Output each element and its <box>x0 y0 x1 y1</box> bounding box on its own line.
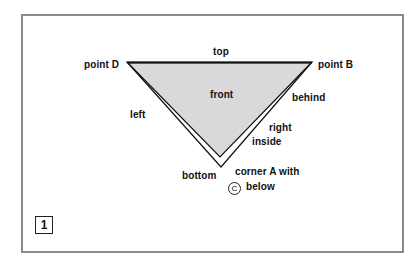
label-behind: behind <box>292 92 325 103</box>
label-right: right <box>269 122 292 133</box>
label-point-b: point B <box>318 59 353 70</box>
label-bottom: bottom <box>182 170 216 181</box>
label-inside: inside <box>252 136 282 147</box>
circle-c-icon: C <box>228 182 241 195</box>
label-corner-a: corner A with <box>235 166 299 177</box>
label-top: top <box>213 46 229 57</box>
front-layer-triangle <box>128 63 311 157</box>
folded-triangle-diagram <box>0 0 416 261</box>
figure-number-badge: 1 <box>35 216 53 234</box>
label-left: left <box>130 109 145 120</box>
label-point-d: point D <box>84 59 119 70</box>
label-below: below <box>246 181 275 192</box>
label-front: front <box>210 89 233 100</box>
